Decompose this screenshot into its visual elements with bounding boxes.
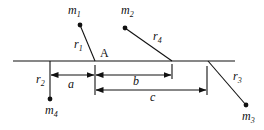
dimension-a: a <box>51 75 94 91</box>
mass-m4-assembly: m4 r2 <box>36 61 58 119</box>
label-r1: r1 <box>74 37 83 53</box>
label-A: A <box>100 46 109 60</box>
label-m1: m1 <box>68 3 81 19</box>
label-r2: r2 <box>36 72 45 88</box>
mass-m3-assembly: m3 r3 <box>208 61 255 125</box>
label-a: a <box>68 77 74 91</box>
dimension-c: c <box>96 90 206 104</box>
label-b: b <box>133 74 139 88</box>
label-m2: m2 <box>121 3 134 19</box>
mass-m4-dot <box>48 97 53 102</box>
mass-m1-assembly: m1 r1 A <box>68 3 109 61</box>
mass-m3-dot <box>244 103 249 108</box>
mass-m1-dot <box>78 23 83 28</box>
mass-m2-dot <box>123 26 128 31</box>
rod-r1 <box>80 25 95 61</box>
dimension-b: b <box>96 74 171 88</box>
label-r4: r4 <box>153 29 162 45</box>
label-m3: m3 <box>242 109 255 125</box>
label-m4: m4 <box>45 103 58 119</box>
label-c: c <box>150 90 156 104</box>
rod-r4 <box>125 28 172 61</box>
label-r3: r3 <box>233 69 242 85</box>
mass-m2-assembly: m2 r4 <box>121 3 172 61</box>
mass-rod-diagram: m1 r1 A m2 r4 m3 r3 m4 r2 a b c <box>0 0 264 130</box>
